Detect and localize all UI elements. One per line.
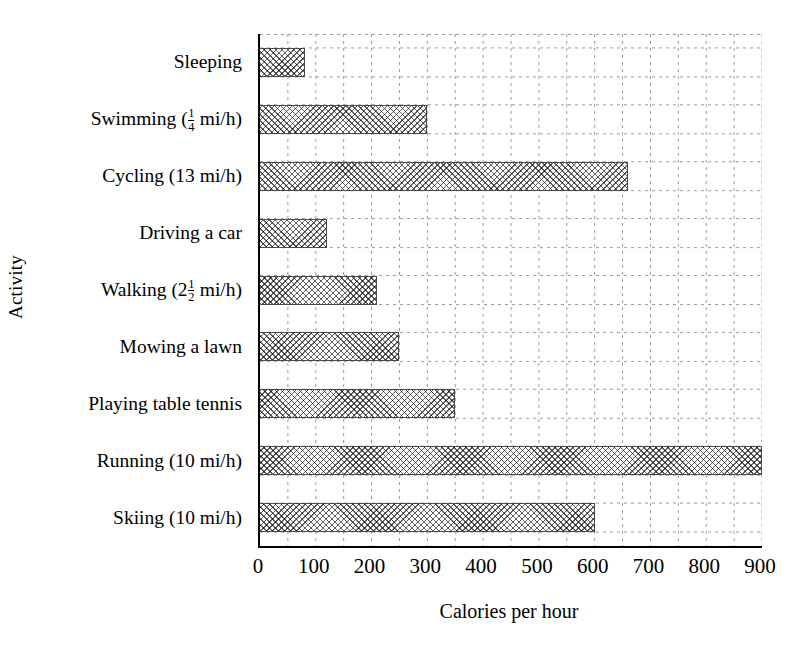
y-axis-tick-label: Walking (212 mi/h): [101, 275, 242, 305]
y-axis-tick-label: Sleeping: [174, 47, 242, 77]
fraction: 12: [188, 278, 194, 305]
x-axis-tick-label: 800: [688, 552, 720, 580]
y-axis-tick-label: Driving a car: [139, 218, 242, 248]
x-axis-title: Calories per hour: [258, 600, 760, 623]
bar: [260, 389, 455, 418]
y-axis-tick-label: Playing table tennis: [88, 389, 242, 419]
y-axis-tick-label: Mowing a lawn: [120, 332, 242, 362]
bar: [260, 162, 628, 191]
fraction: 14: [188, 107, 194, 134]
x-axis-tick-label: 200: [354, 552, 386, 580]
bar: [260, 276, 377, 305]
x-axis-tick-label: 500: [521, 552, 553, 580]
bar: [260, 446, 762, 475]
y-axis-tick-label: Cycling (13 mi/h): [102, 161, 242, 191]
x-axis-tick-label: 900: [744, 552, 776, 580]
y-axis-tick-label: Swimming (14 mi/h): [91, 104, 242, 134]
bar-chart: Activity SleepingSwimming (14 mi/h)Cycli…: [0, 0, 789, 665]
x-axis-tick-label: 400: [465, 552, 497, 580]
x-axis-tick-label: 300: [410, 552, 442, 580]
x-axis-tick-label: 700: [633, 552, 665, 580]
y-axis-tick-label: Running (10 mi/h): [97, 446, 242, 476]
bar: [260, 503, 595, 532]
plot-area: [258, 34, 762, 548]
bar: [260, 105, 427, 134]
bar: [260, 219, 327, 248]
x-axis-tick-label: 100: [298, 552, 330, 580]
x-axis-tick-label: 600: [577, 552, 609, 580]
bar: [260, 332, 399, 361]
x-axis-tick-labels: 0100200300400500600700800900: [258, 552, 760, 582]
x-axis-tick-label: 0: [253, 552, 264, 580]
y-axis-tick-label: Skiing (10 mi/h): [113, 503, 242, 533]
bar: [260, 48, 305, 77]
y-axis-tick-labels: SleepingSwimming (14 mi/h)Cycling (13 mi…: [0, 34, 250, 546]
